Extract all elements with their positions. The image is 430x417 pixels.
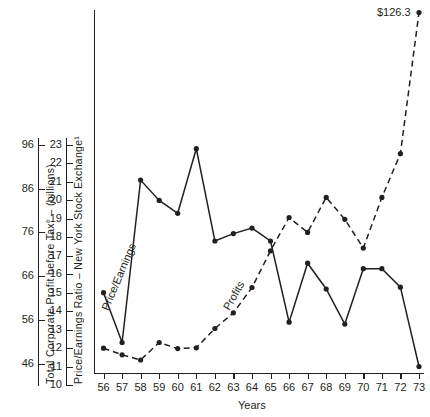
x-axis-title: Years (238, 399, 266, 411)
x-tick-mark (104, 374, 105, 379)
x-tick-label: 73 (407, 381, 430, 393)
data-point (324, 195, 329, 200)
chart-figure: 968676665646 Total Corporate Profit befo… (0, 0, 430, 417)
data-point (138, 178, 143, 183)
data-point (287, 320, 292, 325)
data-point (212, 326, 217, 331)
data-point (398, 285, 403, 290)
peak-value-annotation: $126.3 (377, 6, 411, 18)
x-tick-mark (308, 374, 309, 379)
data-point (379, 266, 384, 271)
data-point (194, 345, 199, 350)
data-point (361, 246, 366, 251)
data-point (101, 346, 106, 351)
data-point (212, 238, 217, 243)
data-point (268, 248, 273, 253)
x-tick-mark (141, 374, 142, 379)
data-point (120, 340, 125, 345)
data-point (194, 146, 199, 151)
data-point (416, 364, 421, 369)
x-tick-mark (178, 374, 179, 379)
data-point (287, 215, 292, 220)
x-tick-mark (345, 374, 346, 379)
x-tick-mark (122, 374, 123, 379)
x-tick-mark (289, 374, 290, 379)
data-point (175, 346, 180, 351)
data-point (379, 195, 384, 200)
data-point (157, 340, 162, 345)
data-point (175, 211, 180, 216)
data-point (342, 322, 347, 327)
x-tick-mark (326, 374, 327, 379)
x-tick-mark (252, 374, 253, 379)
data-point (157, 198, 162, 203)
data-point (324, 286, 329, 291)
data-point (416, 10, 421, 15)
x-tick-mark (363, 374, 364, 379)
series-line-price-earnings (104, 149, 420, 367)
x-tick-mark (233, 374, 234, 379)
x-tick-mark (215, 374, 216, 379)
series-line-profits (104, 13, 420, 360)
x-tick-mark (196, 374, 197, 379)
data-point (305, 261, 310, 266)
data-point (120, 352, 125, 357)
data-point (305, 230, 310, 235)
data-point (342, 217, 347, 222)
data-point (268, 238, 273, 243)
chart-plot-area (0, 0, 430, 417)
x-tick-mark (271, 374, 272, 379)
data-point (138, 357, 143, 362)
x-tick-mark (159, 374, 160, 379)
data-point (231, 231, 236, 236)
x-tick-mark (400, 374, 401, 379)
data-point (249, 226, 254, 231)
data-point (361, 266, 366, 271)
data-point (398, 151, 403, 156)
data-point (249, 285, 254, 290)
x-tick-mark (382, 374, 383, 379)
x-tick-mark (419, 374, 420, 379)
